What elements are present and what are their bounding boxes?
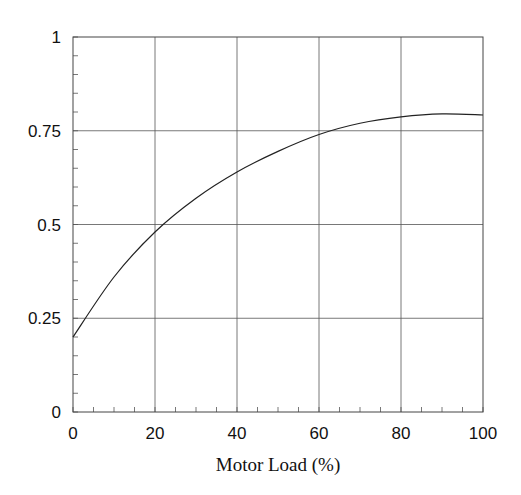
data-line — [73, 114, 483, 337]
y-tick-label: 0.5 — [37, 216, 61, 235]
y-tick-labels: 00.250.50.751 — [28, 28, 61, 422]
y-tick-label: 0 — [52, 403, 61, 422]
y-tick-label: 0.25 — [28, 309, 61, 328]
x-tick-label: 20 — [146, 424, 165, 443]
x-axis-title: Motor Load (%) — [216, 454, 341, 476]
x-tick-label: 40 — [228, 424, 247, 443]
x-tick-label: 100 — [469, 424, 497, 443]
y-tick-label: 1 — [52, 28, 61, 47]
x-tick-label: 0 — [68, 424, 77, 443]
x-tick-label: 60 — [310, 424, 329, 443]
x-tick-label: 80 — [392, 424, 411, 443]
y-tick-label: 0.75 — [28, 122, 61, 141]
grid — [73, 37, 483, 412]
x-tick-labels: 020406080100 — [68, 424, 497, 443]
chart: 020406080100 00.250.50.751 Motor Load (%… — [0, 0, 521, 495]
